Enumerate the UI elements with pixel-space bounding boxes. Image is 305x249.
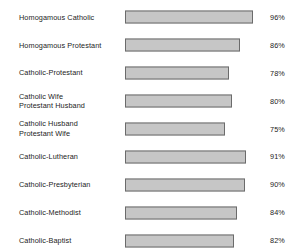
bar-track <box>125 11 255 24</box>
bar-value-label: 78% <box>270 69 302 78</box>
bar-value-label: 96% <box>270 13 302 22</box>
bar-value-label: 91% <box>270 152 302 161</box>
bar-track <box>125 150 255 163</box>
horizontal-bar-chart: Homogamous Catholic96%Homogamous Protest… <box>0 0 305 249</box>
bar-track <box>125 39 255 52</box>
bar <box>125 206 237 219</box>
category-label: Catholic-Baptist <box>19 236 121 246</box>
chart-row: Catholic-Presbyterian90% <box>0 171 305 199</box>
category-label: Catholic-Presbyterian <box>19 180 121 190</box>
chart-row: Homogamous Protestant86% <box>0 31 305 59</box>
bar-track <box>125 123 255 136</box>
bar <box>125 67 229 80</box>
bar-track <box>125 206 255 219</box>
bar-value-label: 84% <box>270 208 302 217</box>
bar-value-label: 86% <box>270 41 302 50</box>
category-label: Homogamous Protestant <box>19 41 121 51</box>
chart-row: Catholic-Baptist82% <box>0 227 305 249</box>
bar-track <box>125 67 255 80</box>
category-label: Catholic-Methodist <box>19 208 121 218</box>
bar <box>125 178 245 191</box>
bar-value-label: 80% <box>270 97 302 106</box>
bar-track <box>125 234 255 247</box>
bar <box>125 234 234 247</box>
category-label: Catholic Wife Protestant Husband <box>19 92 121 111</box>
bar <box>125 150 246 163</box>
chart-row: Catholic-Protestant78% <box>0 59 305 87</box>
bar <box>125 95 232 108</box>
bar-value-label: 90% <box>270 180 302 189</box>
chart-row: Homogamous Catholic96% <box>0 4 305 32</box>
category-label: Catholic Husband Protestant Wife <box>19 119 121 138</box>
category-label: Catholic-Protestant <box>19 68 121 78</box>
bar-track <box>125 178 255 191</box>
category-label: Homogamous Catholic <box>19 13 121 23</box>
bar <box>125 39 240 52</box>
bar-track <box>125 95 255 108</box>
chart-row: Catholic Husband Protestant Wife75% <box>0 115 305 143</box>
bar-value-label: 75% <box>270 125 302 134</box>
chart-row: Catholic Wife Protestant Husband80% <box>0 87 305 115</box>
chart-row: Catholic-Lutheran91% <box>0 143 305 171</box>
category-label: Catholic-Lutheran <box>19 152 121 162</box>
bar <box>125 123 225 136</box>
chart-row: Catholic-Methodist84% <box>0 199 305 227</box>
bar <box>125 11 253 24</box>
bar-value-label: 82% <box>270 236 302 245</box>
